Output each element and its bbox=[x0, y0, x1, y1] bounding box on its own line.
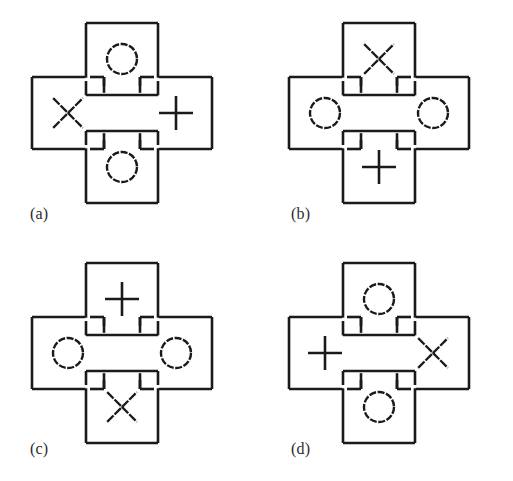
panel-b-diagram bbox=[257, 0, 513, 240]
symbols-group bbox=[310, 44, 448, 184]
panel-a-label: (a) bbox=[30, 205, 48, 223]
panel-c: (c) bbox=[0, 240, 256, 480]
panel-c-label: (c) bbox=[30, 440, 48, 458]
panel-b-label: (b) bbox=[291, 205, 310, 223]
symbols-group bbox=[308, 284, 448, 422]
panel-d-label: (d) bbox=[291, 440, 310, 458]
figure-root: (a) (b) (c) (d) bbox=[0, 0, 513, 481]
panel-a-diagram bbox=[0, 0, 256, 240]
symbols-group bbox=[53, 282, 191, 422]
panel-d: (d) bbox=[257, 240, 513, 480]
panel-b: (b) bbox=[257, 0, 513, 240]
panel-a: (a) bbox=[0, 0, 256, 240]
symbols-group bbox=[53, 44, 193, 182]
